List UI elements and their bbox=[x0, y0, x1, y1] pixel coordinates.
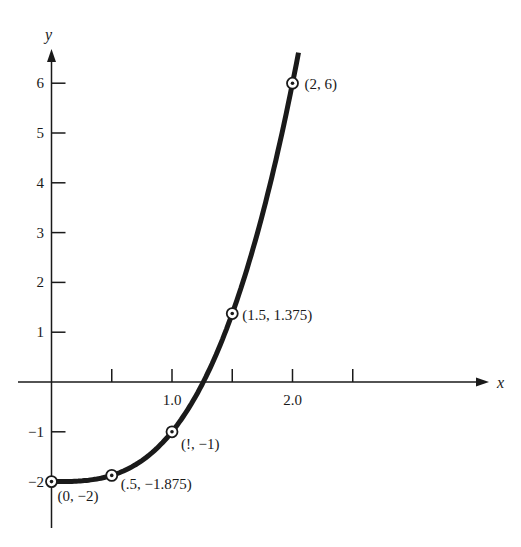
y-ticks: 654321−1−2 bbox=[28, 75, 65, 489]
y-tick-label: 4 bbox=[37, 175, 45, 191]
y-tick-label: −2 bbox=[28, 474, 44, 490]
x-ticks: 1.02.0 bbox=[112, 369, 353, 408]
chart-canvas: x y 1.02.0 654321−1−2 (0, −2)(.5, −1.875… bbox=[0, 0, 521, 547]
axes: x y bbox=[18, 26, 504, 528]
x-axis-label: x bbox=[496, 374, 504, 391]
y-tick-label: 1 bbox=[37, 324, 45, 340]
y-tick-label: −1 bbox=[28, 424, 44, 440]
point-annotation: (0, −2) bbox=[58, 488, 99, 505]
data-point-dot bbox=[230, 312, 234, 316]
point-annotation: (.5, −1.875) bbox=[121, 476, 192, 493]
y-tick-label: 3 bbox=[37, 225, 45, 241]
y-axis-arrow-icon bbox=[47, 49, 56, 62]
y-tick-label: 5 bbox=[37, 125, 45, 141]
x-tick-label: 1.0 bbox=[163, 392, 182, 408]
point-annotations: (0, −2)(.5, −1.875)(!, −1)(1.5, 1.375)(2… bbox=[58, 76, 338, 504]
x-tick-label: 2.0 bbox=[283, 392, 302, 408]
y-tick-label: 6 bbox=[37, 75, 45, 91]
y-axis-label: y bbox=[43, 26, 53, 44]
function-curve bbox=[52, 53, 299, 482]
y-tick-label: 2 bbox=[37, 274, 45, 290]
data-point-dot bbox=[291, 81, 295, 85]
point-annotation: (!, −1) bbox=[181, 436, 219, 453]
data-point-dot bbox=[170, 430, 174, 434]
data-point-dot bbox=[110, 474, 114, 478]
point-annotation: (2, 6) bbox=[305, 76, 338, 93]
x-axis-arrow-icon bbox=[476, 378, 489, 387]
data-points bbox=[46, 78, 298, 487]
data-point-dot bbox=[50, 480, 54, 484]
point-annotation: (1.5, 1.375) bbox=[242, 307, 312, 324]
